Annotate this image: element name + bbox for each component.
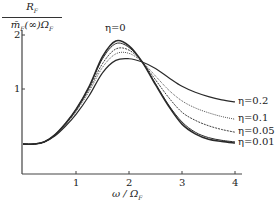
series-label-eta-0: η=0 [105,22,126,33]
curve-eta-0.1 [23,52,235,144]
y-tick-label-2: 2 [14,29,20,40]
y-tick-label-1: 1 [14,83,20,94]
y-label-numerator: R [26,1,34,12]
x-tick-label-2: 2 [126,177,132,188]
axis-ticks [22,35,235,174]
y-label-den-mid: (∞)Ω [25,19,49,30]
x-tick-label-4: 4 [232,177,238,188]
curve-eta-0.05 [23,48,235,144]
y-axis-label: RF m̄F(∞)ΩF [2,1,62,34]
curve-eta-0 [23,40,235,144]
x-tick-label-3: 3 [179,177,185,188]
curves [23,40,235,144]
x-label-main: ω / Ω [112,188,138,199]
y-label-num-sub: F [34,7,38,14]
x-tick-label-1: 1 [73,177,79,188]
curve-eta-0.2 [23,59,235,145]
series-label-eta-0.1: η=0.1 [238,112,268,123]
series-label-eta-0.2: η=0.2 [238,95,268,106]
series-label-eta-0.01: η=0.01 [238,136,275,147]
x-axis-label: ω / ΩF [112,188,142,201]
series-label-eta-0.05: η=0.05 [238,125,275,136]
x-label-sub: F [138,194,142,201]
y-label-den-sub2: F [49,25,53,32]
